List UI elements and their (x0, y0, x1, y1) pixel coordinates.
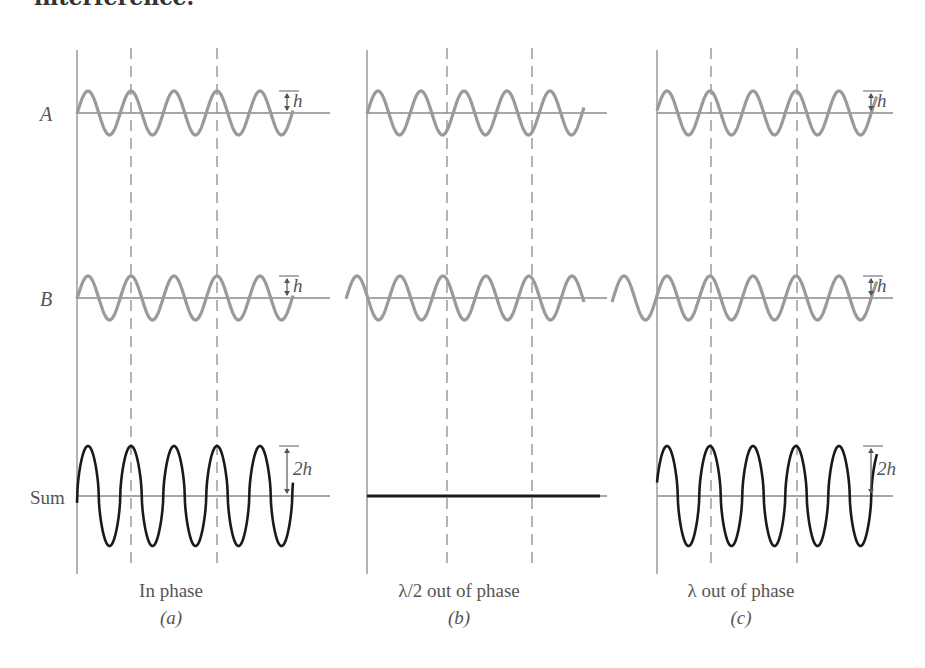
amplitude-h-label: h (293, 90, 303, 111)
sublabel-c: (c) (730, 607, 751, 629)
amplitude-2h-label: 2h (877, 458, 896, 479)
amplitude-2h-label: 2h (293, 458, 312, 479)
row-label-sum: Sum (30, 487, 65, 508)
amplitude-h-label: h (877, 275, 887, 296)
row-label-b: B (40, 288, 52, 310)
panel-c: hh2hλ out of phase(c) (612, 48, 896, 629)
panel-b: λ/2 out of phase(b) (346, 48, 607, 629)
row-label-a: A (38, 103, 53, 125)
amplitude-h-label: h (293, 275, 303, 296)
panels: hh2hIn phase(a)λ/2 out of phase(b)hh2hλ … (77, 48, 896, 629)
panel-a: hh2hIn phase(a) (77, 48, 330, 629)
amplitude-h-label: h (877, 90, 887, 111)
row-labels: A B Sum (30, 103, 65, 508)
sublabel-a: (a) (160, 607, 182, 629)
wave-interference-figure: A B Sum hh2hIn phase(a)λ/2 out of phase(… (0, 0, 925, 668)
caption-a: In phase (139, 580, 203, 601)
caption-b: λ/2 out of phase (398, 580, 520, 601)
caption-c: λ out of phase (688, 580, 795, 601)
sublabel-b: (b) (448, 607, 470, 629)
